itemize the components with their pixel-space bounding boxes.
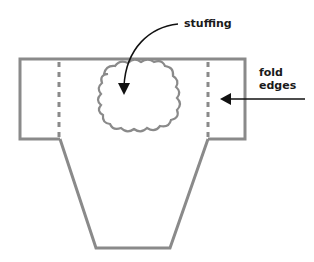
fold-edges-label-line1: fold <box>259 66 296 79</box>
fold-edges-arrowhead-icon <box>220 93 231 105</box>
stuffing-cloud <box>98 60 180 132</box>
body-outline <box>60 139 208 248</box>
fold-edges-label-line2: edges <box>259 79 296 92</box>
stuffing-label: stuffing <box>184 17 232 30</box>
fold-edges-label: fold edges <box>259 66 296 92</box>
pattern-diagram <box>0 0 314 262</box>
